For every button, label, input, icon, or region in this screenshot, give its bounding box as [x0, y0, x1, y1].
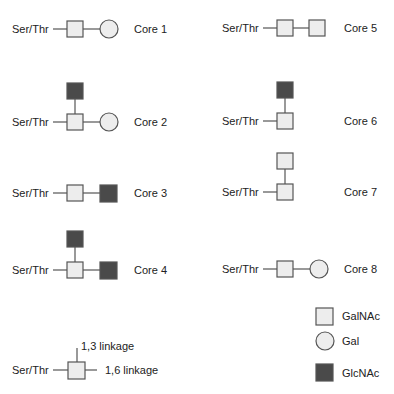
gal-circle-icon [100, 113, 118, 131]
core-5: Ser/Thr Core 5 [222, 20, 377, 36]
glcnac-square-icon [67, 231, 83, 247]
glcnac-square-icon [67, 83, 83, 99]
o-glycan-core-diagram: Ser/Thr Core 1 Ser/Thr Core 2 Ser/Thr Co [0, 0, 394, 394]
galnac-square-icon [67, 185, 83, 201]
glcnac-square-icon [100, 185, 117, 202]
gal-circle-icon [100, 20, 118, 38]
core-2: Ser/Thr Core 2 [12, 83, 167, 131]
galnac-square-icon [67, 262, 83, 278]
core-8: Ser/Thr Core 8 [222, 260, 377, 278]
core-4: Ser/Thr Core 4 [12, 231, 167, 279]
linkage-16-label: 1,6 linkage [105, 364, 158, 376]
glcnac-square-icon [277, 82, 293, 98]
glcnac-square-icon [100, 262, 117, 279]
galnac-square-icon [68, 362, 85, 379]
ser-thr-label: Ser/Thr [222, 263, 259, 275]
core-label: Core 1 [134, 23, 167, 35]
linkage-key: 1,3 linkage Ser/Thr 1,6 linkage [12, 340, 158, 379]
ser-thr-label: Ser/Thr [12, 187, 49, 199]
linkage-13-label: 1,3 linkage [81, 340, 134, 352]
ser-thr-label: Ser/Thr [222, 115, 259, 127]
core-3: Ser/Thr Core 3 [12, 185, 167, 202]
core-6: Ser/Thr Core 6 [222, 82, 377, 129]
legend: GalNAc Gal GlcNAc [316, 308, 380, 381]
glcnac-legend-icon [316, 364, 333, 381]
legend-label: GlcNAc [342, 367, 380, 379]
core-label: Core 4 [134, 264, 167, 276]
gal-legend-icon [316, 332, 334, 350]
ser-thr-label: Ser/Thr [222, 22, 259, 34]
galnac-square-icon [277, 261, 293, 277]
galnac-square-icon [277, 113, 293, 129]
galnac-square-icon [277, 184, 293, 200]
core-label: Core 8 [344, 263, 377, 275]
ser-thr-label: Ser/Thr [12, 264, 49, 276]
ser-thr-label: Ser/Thr [12, 116, 49, 128]
galnac-square-icon [277, 20, 293, 36]
legend-label: GalNAc [342, 310, 380, 322]
gal-circle-icon [310, 260, 328, 278]
core-1: Ser/Thr Core 1 [12, 20, 167, 38]
legend-label: Gal [342, 335, 359, 347]
galnac-square-icon [277, 153, 293, 169]
core-7: Ser/Thr Core 7 [222, 153, 377, 200]
galnac-legend-icon [316, 308, 333, 325]
core-label: Core 5 [344, 22, 377, 34]
galnac-square-icon [67, 21, 83, 37]
ser-thr-label: Ser/Thr [12, 23, 49, 35]
core-label: Core 3 [134, 187, 167, 199]
core-label: Core 6 [344, 115, 377, 127]
ser-thr-label: Ser/Thr [222, 186, 259, 198]
core-label: Core 2 [134, 116, 167, 128]
core-label: Core 7 [344, 186, 377, 198]
galnac-square-icon [67, 114, 83, 130]
galnac-square-icon [309, 20, 325, 36]
ser-thr-label: Ser/Thr [12, 364, 49, 376]
